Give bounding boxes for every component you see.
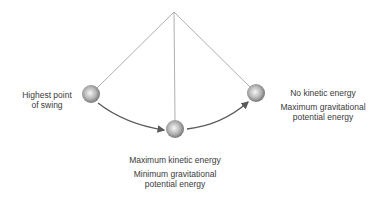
label-no-kinetic: No kinetic energy bbox=[268, 88, 378, 98]
label-right-energy: No kinetic energy Maximum gravitational … bbox=[268, 88, 378, 122]
label-highest-point-line2: of swing bbox=[14, 100, 80, 110]
pendulum-string-right bbox=[174, 12, 250, 87]
swing-arrow-up bbox=[187, 102, 248, 129]
label-max-gpe-line2: potential energy bbox=[268, 112, 378, 122]
label-min-gpe-line2: potential energy bbox=[115, 179, 235, 189]
label-bottom-energy: Maximum kinetic energy Minimum gravitati… bbox=[115, 155, 235, 189]
label-min-gpe-line1: Minimum gravitational bbox=[115, 169, 235, 179]
pendulum-bob-right bbox=[247, 84, 265, 102]
label-max-kinetic: Maximum kinetic energy bbox=[115, 155, 235, 165]
pendulum-bob-left bbox=[82, 85, 100, 103]
swing-arrow-down bbox=[98, 103, 164, 130]
pendulum-string-center bbox=[174, 12, 175, 120]
label-highest-point-line1: Highest point bbox=[14, 90, 80, 100]
pendulum-string-left bbox=[97, 12, 174, 88]
label-highest-point: Highest point of swing bbox=[14, 90, 80, 110]
pendulum-bob-bottom bbox=[166, 120, 184, 138]
label-max-gpe-line1: Maximum gravitational bbox=[268, 102, 378, 112]
